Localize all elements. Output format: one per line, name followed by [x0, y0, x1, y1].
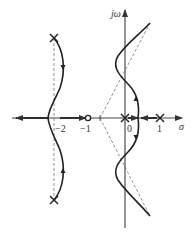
poles — [50, 34, 164, 204]
imag-axis-label: jω — [109, 8, 121, 19]
tick-label-0: 0 — [127, 123, 132, 134]
zero-marker — [85, 115, 90, 120]
dashed-guides — [54, 23, 150, 216]
real-axis-label: σ — [179, 121, 185, 132]
pole-marker — [50, 196, 58, 204]
tick-label-1: 1 — [157, 123, 162, 134]
root-locus-diagram: −2 −1 0 1 σ jω — [0, 0, 195, 236]
tick-label-neg1: −1 — [80, 123, 91, 134]
right-branch — [116, 23, 150, 216]
tick-label-neg2: −2 — [55, 123, 66, 134]
left-branch — [48, 38, 63, 200]
